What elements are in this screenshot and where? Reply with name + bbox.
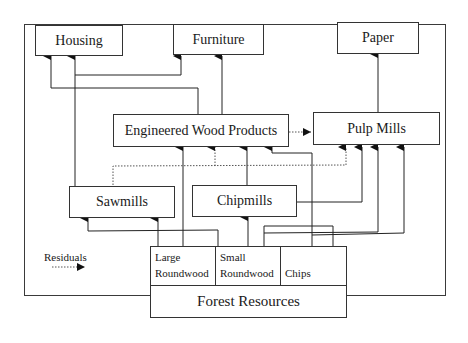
edge-chips-link: [264, 226, 333, 246]
edge-ewp-housing: [51, 56, 198, 115]
edge-chipmills-pulp: [297, 147, 362, 202]
node-large-roundwood: Large Roundwood: [150, 246, 216, 286]
node-forest-resources-label: Forest Resources: [197, 293, 300, 310]
large-roundwood-line1: Large: [155, 249, 215, 265]
node-sawmills: Sawmills: [69, 186, 175, 218]
large-roundwood-line2: Roundwood: [155, 265, 215, 281]
small-roundwood-line1: Small: [220, 249, 280, 265]
node-housing: Housing: [35, 25, 123, 56]
node-housing-label: Housing: [55, 33, 102, 49]
chips-label: Chips: [285, 265, 346, 281]
node-chipmills: Chipmills: [192, 185, 297, 217]
small-roundwood-line2: Roundwood: [220, 265, 280, 281]
node-chips: Chips: [280, 246, 347, 286]
node-sawmills-label: Sawmills: [96, 194, 148, 210]
node-paper: Paper: [337, 22, 419, 54]
node-chipmills-label: Chipmills: [217, 193, 272, 209]
legend-residuals-label: Residuals: [44, 251, 87, 263]
node-engineered-wood-products: Engineered Wood Products: [113, 114, 289, 147]
node-forest-resources: Forest Resources: [150, 285, 347, 318]
node-pulp-mills: Pulp Mills: [313, 112, 440, 145]
edge-chips-pulp: [312, 147, 404, 235]
node-engineered-wood-products-label: Engineered Wood Products: [125, 123, 278, 139]
legend-residuals: Residuals: [44, 251, 87, 263]
node-furniture: Furniture: [173, 24, 264, 55]
edge-roundwood-sawmills-a: [88, 218, 218, 246]
node-small-roundwood: Small Roundwood: [215, 246, 281, 286]
edge-sawmills-furniture: [75, 56, 181, 75]
node-pulp-mills-label: Pulp Mills: [347, 121, 406, 137]
node-paper-label: Paper: [362, 30, 394, 46]
node-furniture-label: Furniture: [192, 32, 244, 48]
